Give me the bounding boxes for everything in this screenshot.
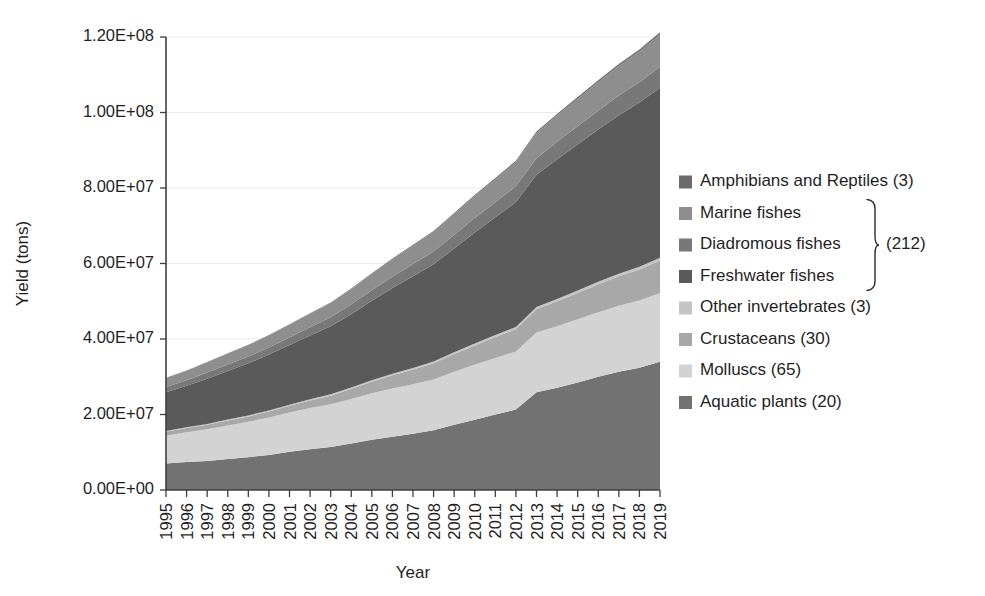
legend-swatch xyxy=(679,396,692,409)
x-tick-label: 2011 xyxy=(486,503,504,538)
x-tick-label: 2015 xyxy=(569,503,587,540)
x-tick-label: 1996 xyxy=(178,503,196,540)
legend-swatch xyxy=(679,365,692,378)
x-tick-label: 2009 xyxy=(445,503,463,540)
legend-label: Marine fishes xyxy=(700,203,801,222)
x-tick-label: 2003 xyxy=(322,503,340,540)
y-axis-title: Yield (tons) xyxy=(13,221,32,306)
x-tick-label: 2005 xyxy=(363,503,381,540)
y-tick-label: 1.00E+08 xyxy=(83,102,154,120)
x-tick-label: 2013 xyxy=(528,503,546,540)
stacked-area-chart: 0.00E+002.00E+074.00E+076.00E+078.00E+07… xyxy=(0,0,985,596)
x-tick-label: 2018 xyxy=(630,503,648,540)
y-tick-label: 1.20E+08 xyxy=(83,26,154,44)
x-tick-label: 2017 xyxy=(610,503,628,540)
legend-swatch xyxy=(679,239,692,252)
legend-swatch xyxy=(679,333,692,346)
y-tick-label: 0.00E+00 xyxy=(83,479,154,497)
legend-swatch xyxy=(679,176,692,189)
x-tick-label: 2001 xyxy=(281,503,299,540)
legend-label: Other invertebrates (3) xyxy=(700,297,871,316)
legend-label: Amphibians and Reptiles (3) xyxy=(700,171,914,190)
x-tick-label: 2000 xyxy=(260,503,278,540)
x-tick-label: 2016 xyxy=(589,503,607,540)
y-tick-label: 2.00E+07 xyxy=(83,404,154,422)
x-tick-label: 2007 xyxy=(404,503,422,540)
x-tick-label: 2014 xyxy=(548,503,566,540)
legend-label: Aquatic plants (20) xyxy=(700,392,842,411)
x-tick-label: 1998 xyxy=(219,503,237,540)
legend-label: Crustaceans (30) xyxy=(700,329,830,348)
y-tick-label: 4.00E+07 xyxy=(83,328,154,346)
x-tick-label: 2019 xyxy=(651,503,669,540)
legend-label: Molluscs (65) xyxy=(700,360,801,379)
legend-label: Freshwater fishes xyxy=(700,266,834,285)
legend-label: Diadromous fishes xyxy=(700,234,841,253)
x-tick-label: 2006 xyxy=(383,503,401,540)
x-tick-label: 2002 xyxy=(301,503,319,540)
legend-swatch xyxy=(679,302,692,315)
x-tick-label: 1997 xyxy=(198,503,216,540)
y-tick-label: 8.00E+07 xyxy=(83,177,154,195)
x-tick-label: 1999 xyxy=(239,503,257,540)
legend-swatch xyxy=(679,207,692,220)
y-tick-label: 6.00E+07 xyxy=(83,253,154,271)
x-tick-label: 1995 xyxy=(157,503,175,540)
x-tick-label: 2012 xyxy=(507,503,525,540)
legend-swatch xyxy=(679,270,692,283)
x-axis-title: Year xyxy=(396,563,431,582)
x-tick-label: 2008 xyxy=(425,503,443,540)
x-tick-label: 2004 xyxy=(342,503,360,540)
x-tick-label: 2010 xyxy=(466,503,484,540)
legend-group-brace-label: (212) xyxy=(886,234,926,253)
